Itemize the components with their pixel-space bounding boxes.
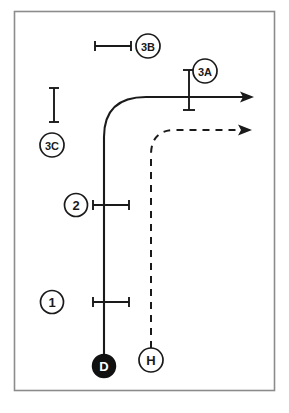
diagram-canvas: 3B 3A 3C 2 1 D H: [0, 0, 289, 413]
path-dashed-turn: [151, 125, 252, 349]
marker-h[interactable]: H: [139, 348, 163, 372]
callout-3c-label: 3C: [45, 140, 59, 152]
path-dashed-turn-line: [151, 130, 242, 348]
marker-d[interactable]: D: [93, 355, 116, 378]
dimension-1: [93, 297, 129, 307]
path-solid-turn-line: [104, 97, 247, 355]
dimension-3c: [49, 88, 59, 122]
callout-2-label: 2: [72, 198, 79, 213]
callout-1[interactable]: 1: [41, 291, 64, 314]
callout-3b[interactable]: 3B: [136, 34, 160, 58]
callout-3b-label: 3B: [141, 41, 155, 53]
turning-path-diagram: 3B 3A 3C 2 1 D H: [0, 0, 289, 413]
dimension-3b: [95, 41, 131, 51]
path-solid-turn: [104, 92, 254, 356]
dimension-2: [93, 200, 129, 210]
path-dashed-turn-arrowhead: [238, 125, 252, 136]
marker-d-label: D: [99, 359, 108, 374]
callout-3a[interactable]: 3A: [193, 59, 217, 83]
diagram-border: [15, 12, 275, 391]
callout-2[interactable]: 2: [65, 194, 88, 217]
marker-h-label: H: [146, 353, 155, 368]
callout-3a-label: 3A: [198, 66, 212, 78]
callout-1-label: 1: [48, 295, 55, 310]
callout-3c[interactable]: 3C: [40, 133, 64, 157]
